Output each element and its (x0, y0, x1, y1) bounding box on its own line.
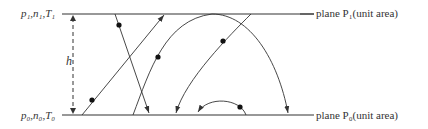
top-plane-label: plane P₁(unit area) (316, 8, 398, 19)
top-state-label: p₁,n₁,T₁ (21, 8, 55, 19)
height-label: h (66, 55, 72, 67)
trajectory-4 (176, 14, 251, 113)
molecule-dot (220, 38, 225, 43)
molecule-dot (155, 54, 160, 59)
molecule-dot (116, 22, 121, 27)
molecule-dot (89, 97, 94, 102)
trajectory-1 (115, 14, 149, 113)
trajectory-3 (133, 14, 288, 115)
trajectory-2 (82, 15, 164, 115)
bottom-state-label: p₀,n₀,T₀ (21, 110, 55, 121)
bottom-plane-label: plane P₀(unit area) (316, 110, 398, 121)
molecule-dot (237, 104, 242, 109)
trajectory-5 (198, 101, 246, 115)
